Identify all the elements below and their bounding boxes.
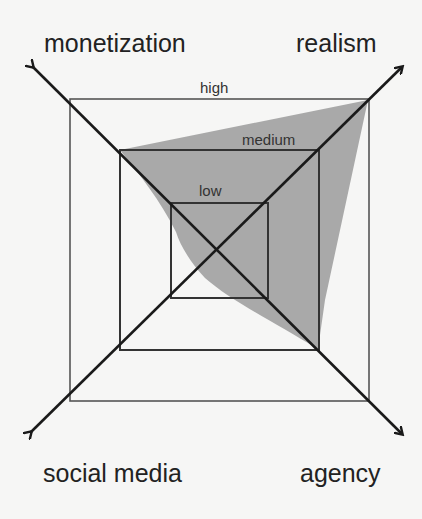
tier-label-medium: medium	[242, 131, 295, 148]
tier-label-low: low	[199, 182, 222, 199]
axis-label-agency: agency	[300, 459, 381, 487]
axis-label-monetization: monetization	[44, 29, 186, 57]
tier-label-high: high	[200, 79, 228, 96]
axis-label-social-media: social media	[43, 459, 182, 487]
axis-label-realism: realism	[296, 29, 377, 57]
radar-diagram: high medium low monetization realism soc…	[0, 0, 422, 519]
